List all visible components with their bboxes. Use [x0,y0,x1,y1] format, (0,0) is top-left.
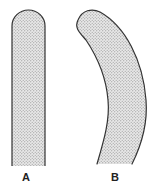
shape-b [77,10,147,164]
diagram-figure: A B [0,0,150,187]
label-b: B [111,171,119,183]
shape-a [12,10,45,166]
label-a: A [22,171,30,183]
shape-b-body [77,10,147,164]
shape-a-body [12,10,45,166]
